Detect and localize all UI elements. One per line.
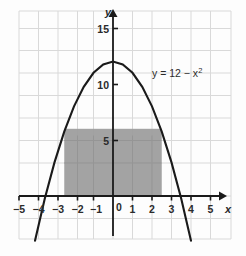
x-tick-label: 5 — [208, 203, 214, 215]
x-tick-label: −2 — [72, 203, 84, 215]
x-tick-label: −1 — [90, 203, 102, 215]
x-tick-label: 4 — [188, 203, 194, 215]
curve-equation-exponent: 2 — [198, 66, 202, 75]
x-tick-label: −3 — [52, 203, 64, 215]
y-tick-label: 15 — [97, 23, 109, 35]
x-tick-label: −5 — [13, 203, 25, 215]
x-tick-label: −4 — [33, 203, 45, 215]
x-tick-label: 2 — [149, 203, 155, 215]
graph-figure: −5 −4 −3 −2 −1 0 1 2 3 4 5 5 10 15 x y y… — [0, 0, 246, 256]
y-tick-label: 10 — [97, 79, 109, 91]
x-tick-label: 3 — [169, 203, 175, 215]
x-tick-label: 1 — [130, 203, 136, 215]
coordinate-plane: −5 −4 −3 −2 −1 0 1 2 3 4 5 5 10 15 x y y… — [0, 0, 246, 256]
x-axis-label: x — [224, 203, 232, 215]
curve-equation-label: y = 12 − x2 — [152, 66, 202, 79]
y-axis-label: y — [104, 6, 112, 18]
plot-background — [0, 0, 246, 256]
x-tick-label-origin: 0 — [116, 201, 122, 213]
curve-equation-text: y = 12 − x — [152, 67, 199, 79]
y-tick-label: 5 — [103, 135, 109, 147]
